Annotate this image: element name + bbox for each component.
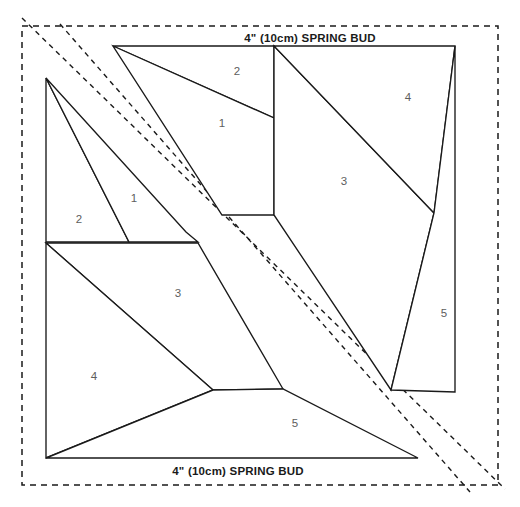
pattern-drawing: 2 1 3 4 5 2 1 3 4 5 4" (10cm) SPRING BUD… bbox=[0, 0, 520, 507]
patch-number-upper-2: 2 bbox=[234, 65, 240, 77]
patch-number-lower-3: 3 bbox=[175, 287, 181, 299]
top-edge-fabric-label: 4" (10cm) SPRING BUD bbox=[244, 32, 376, 44]
patch-number-lower-5: 5 bbox=[292, 417, 298, 429]
patch-number-upper-1: 1 bbox=[219, 117, 225, 129]
patch-number-upper-3: 3 bbox=[341, 175, 347, 187]
quilt-pattern-page: 2 1 3 4 5 2 1 3 4 5 4" (10cm) SPRING BUD… bbox=[0, 0, 520, 507]
bottom-edge-fabric-label: 4" (10cm) SPRING BUD bbox=[172, 465, 304, 477]
patch-number-lower-4: 4 bbox=[91, 370, 98, 382]
patch-number-upper-5: 5 bbox=[441, 307, 447, 319]
patch-number-upper-4: 4 bbox=[405, 91, 412, 103]
patch-number-lower-1: 1 bbox=[131, 192, 137, 204]
patch-number-lower-2: 2 bbox=[76, 213, 82, 225]
